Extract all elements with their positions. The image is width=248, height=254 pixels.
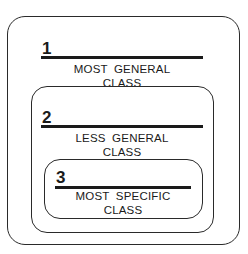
level-1-rule — [41, 56, 203, 59]
level-3-number: 3 — [56, 169, 65, 186]
level-3-label: MOST SPECIFIC CLASS — [55, 189, 191, 217]
level-2-label: LESS GENERAL CLASS — [41, 131, 203, 159]
level-2-label-line1: LESS GENERAL — [41, 131, 203, 145]
level-2-rule — [41, 125, 203, 128]
level-2-number: 2 — [42, 109, 51, 126]
level-1-number: 1 — [42, 40, 51, 57]
level-2-label-line2: CLASS — [41, 145, 203, 159]
level-3-label-line1: MOST SPECIFIC — [55, 189, 191, 203]
level-3-label-line2: CLASS — [55, 203, 191, 217]
level-1-label-line1: MOST GENERAL — [41, 62, 203, 76]
